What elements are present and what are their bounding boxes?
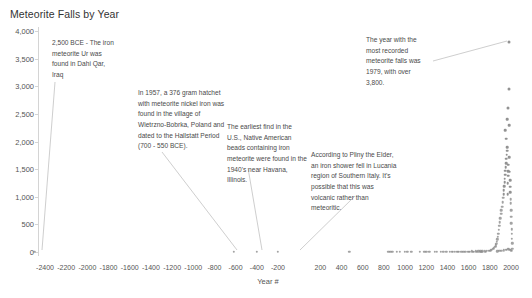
y-axis-tick-label: 3,500 (15, 54, 34, 63)
scatter-point (508, 171, 511, 174)
scatter-point (498, 225, 500, 227)
y-axis-line (38, 27, 39, 256)
scatter-point (425, 251, 427, 253)
scatter-point (501, 201, 504, 204)
x-axis-title: Year # (257, 277, 278, 286)
scatter-point (511, 242, 513, 244)
x-axis-tick-label: 400 (336, 264, 348, 271)
scatter-point (391, 251, 393, 253)
y-axis-tick-labels: 05001,0001,5002,0002,5003,0003,5004,000 (0, 0, 34, 298)
annotation-peak-year-1979: The year with the most recorded meteorit… (366, 35, 428, 88)
annotation-ur-meteorite: 2,500 BCE - The iron meteorite Ur was fo… (52, 38, 114, 81)
scatter-point (507, 41, 510, 44)
scatter-point (256, 251, 258, 253)
scatter-point (499, 217, 502, 220)
scatter-point (509, 186, 512, 189)
scatter-point (498, 229, 500, 231)
x-axis-tick-label: -1800 (100, 264, 118, 271)
x-axis-tick-label: 600 (357, 264, 369, 271)
x-axis-tick-label: 1600 (461, 264, 477, 271)
scatter-point (406, 251, 408, 253)
x-axis-tick-label: -1000 (184, 264, 202, 271)
scatter-point (503, 189, 506, 192)
scatter-point (500, 213, 503, 216)
y-axis-tick-label: 1,500 (15, 165, 34, 174)
x-axis-tick-label: 1400 (440, 264, 456, 271)
scatter-point (505, 137, 508, 140)
x-axis-tick-label: -600 (229, 264, 243, 271)
scatter-point (510, 209, 513, 212)
x-axis-tick-label: -400 (250, 264, 264, 271)
scatter-point (499, 221, 502, 224)
x-axis-tick-label: 200 (315, 264, 327, 271)
annotation-pliny-lucania-shower: According to Pliny the Elder, an iron sh… (311, 150, 397, 214)
scatter-point (502, 193, 505, 196)
scatter-point (348, 251, 350, 253)
x-axis-tick-label: 1200 (418, 264, 434, 271)
scatter-point (436, 251, 438, 253)
leader-line-ur-meteorite (42, 82, 55, 250)
scatter-point (510, 215, 513, 218)
x-axis-tick-label: 1000 (397, 264, 413, 271)
scatter-point (509, 191, 512, 194)
scatter-point (510, 222, 513, 225)
scatter-point (277, 251, 279, 253)
scatter-point (508, 156, 511, 159)
meteorite-falls-chart: Meteorite Falls by Year 05001,0001,5002,… (0, 0, 532, 298)
leader-line-wietrzno-bobrka-hatchet (162, 152, 237, 250)
scatter-point (511, 238, 513, 240)
scatter-point (504, 177, 507, 180)
annotation-wietrzno-bobrka-hatchet: In 1957, a 376 gram hatchet with meteori… (138, 88, 230, 152)
scatter-point (442, 251, 444, 253)
scatter-point (510, 228, 512, 230)
scatter-point (506, 146, 509, 149)
x-axis-tick-label: -800 (207, 264, 221, 271)
x-axis-tick-label: -1200 (163, 264, 181, 271)
scatter-point (507, 174, 510, 177)
scatter-point (506, 150, 509, 153)
scatter-point (509, 179, 512, 182)
y-axis-tick-label: 3,000 (15, 82, 34, 91)
x-axis-tick-label: 2000 (503, 264, 519, 271)
scatter-point (428, 251, 430, 253)
x-axis-tick-label: -2400 (36, 264, 54, 271)
scatter-point (507, 163, 510, 166)
scatter-point (509, 198, 512, 201)
x-axis-tick-label: -1400 (142, 264, 160, 271)
scatter-point (511, 250, 513, 252)
scatter-point (509, 202, 512, 205)
scatter-point (506, 118, 509, 121)
scatter-point (511, 233, 513, 235)
scatter-point (504, 129, 507, 132)
annotation-havana-illinois-beads: The earliest find in the U.S., Native Am… (227, 122, 307, 186)
scatter-point (503, 185, 506, 188)
x-axis-tick-label: -1600 (121, 264, 139, 271)
scatter-point (503, 181, 506, 184)
y-axis-tick-label: 2,000 (15, 137, 34, 146)
scatter-point (419, 251, 421, 253)
y-axis-tick-label: 500 (21, 220, 34, 229)
y-axis-tick-label: 2,500 (15, 109, 34, 118)
scatter-point (445, 251, 447, 253)
scatter-point (500, 209, 503, 212)
scatter-point (395, 251, 397, 253)
scatter-point (507, 107, 510, 110)
scatter-point (232, 251, 234, 253)
scatter-point (508, 88, 511, 91)
x-axis-tick-label: 1800 (482, 264, 498, 271)
x-axis-tick-label: -2200 (57, 264, 75, 271)
leader-line-peak-year-1979 (433, 41, 507, 61)
x-axis-tick-label: -2000 (78, 264, 96, 271)
scatter-point (507, 182, 510, 185)
y-axis-tick-label: 1,000 (15, 192, 34, 201)
scatter-point (410, 251, 412, 253)
scatter-point (501, 205, 504, 208)
scatter-point (399, 251, 401, 253)
y-axis-tick-label: 4,000 (15, 27, 34, 36)
x-axis-tick-label: 800 (378, 264, 390, 271)
scatter-point (502, 197, 505, 200)
scatter-point (508, 124, 511, 127)
x-axis-tick-label: -200 (271, 264, 285, 271)
